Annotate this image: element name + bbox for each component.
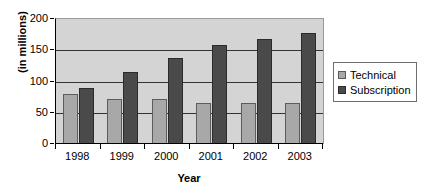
bar-subscription-1999 <box>123 72 138 144</box>
x-axis-tick-label: 2002 <box>243 150 267 162</box>
x-axis-tick-mark <box>100 144 101 149</box>
legend-item-technical[interactable]: Technical <box>338 67 411 82</box>
chart-legend: TechnicalSubscription <box>333 62 417 102</box>
x-axis-tick-label: 2001 <box>199 150 223 162</box>
x-axis-tick-label: 1999 <box>110 150 134 162</box>
bar-technical-2000 <box>152 99 167 144</box>
bar-subscription-2000 <box>168 58 183 144</box>
y-axis-tick-mark <box>50 49 54 50</box>
x-axis-title: Year <box>55 172 323 184</box>
bar-subscription-2001 <box>212 45 227 144</box>
x-axis-tick-marks <box>55 144 323 149</box>
x-axis-tick-mark <box>189 144 190 149</box>
x-axis-tick-label: 2000 <box>154 150 178 162</box>
bar-subscription-1998 <box>79 88 94 144</box>
bar-chart-figure: (in millions) 050100150200 1998199920002… <box>0 0 428 195</box>
y-axis-tick-mark <box>50 112 54 113</box>
legend-item-subscription[interactable]: Subscription <box>338 82 411 97</box>
x-axis-tick-mark <box>55 144 56 149</box>
x-axis-tick-mark <box>144 144 145 149</box>
x-axis-tick-mark <box>322 144 323 149</box>
legend-label: Technical <box>350 69 396 81</box>
x-axis-tick-label: 1998 <box>65 150 89 162</box>
plot-area <box>55 18 324 144</box>
y-axis-tick-label: 0 <box>22 138 48 148</box>
y-axis-tick-mark <box>50 143 54 144</box>
y-axis-tick-label: 50 <box>22 107 48 117</box>
x-axis-tick-label: 2003 <box>288 150 312 162</box>
bar-technical-1999 <box>107 99 122 144</box>
y-axis-tick-label: 100 <box>22 76 48 86</box>
bar-subscription-2002 <box>257 39 272 144</box>
y-axis-tick-label: 200 <box>22 13 48 23</box>
x-axis-tick-mark <box>278 144 279 149</box>
legend-swatch-technical-icon <box>338 71 346 79</box>
bar-technical-2003 <box>285 103 300 144</box>
bars-layer <box>56 19 323 144</box>
y-axis-tick-mark <box>50 18 54 19</box>
y-axis-tick-mark <box>50 81 54 82</box>
bar-subscription-2003 <box>301 33 316 144</box>
bar-technical-2002 <box>241 103 256 144</box>
y-axis-tick-label: 150 <box>22 44 48 54</box>
x-axis-tick-mark <box>233 144 234 149</box>
bar-technical-1998 <box>63 94 78 144</box>
legend-label: Subscription <box>350 84 411 96</box>
x-axis-tick-labels: 199819992000200120022003 <box>55 150 323 164</box>
y-axis-tick-labels: 050100150200 <box>22 18 48 143</box>
bar-technical-2001 <box>196 103 211 144</box>
legend-swatch-subscription-icon <box>338 86 346 94</box>
